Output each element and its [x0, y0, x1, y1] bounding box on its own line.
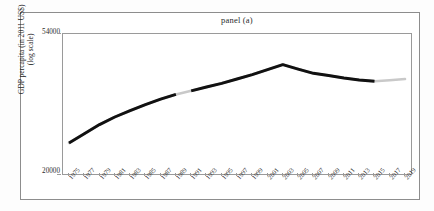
plot-area — [63, 34, 411, 174]
x-axis-tick-labels: 1975197719791981198319851987198919911993… — [62, 176, 412, 210]
data-series-line — [63, 34, 411, 174]
y-axis-title-line1: GDP percapita (in 2011 US$) — [17, 5, 26, 95]
main-series-segment-1 — [69, 94, 176, 142]
ghost-series-line — [69, 65, 405, 143]
y-axis-title-line2: (log scale) — [26, 0, 35, 119]
figure-canvas: panel (a) GDP percapita (in 2011 US$) (l… — [0, 0, 434, 211]
y-axis-title: GDP percapita (in 2011 US$) (log scale) — [17, 0, 36, 119]
y-tick-mark-bottom — [57, 174, 61, 175]
panel-title: panel (a) — [62, 15, 412, 25]
y-tick-mark-top — [57, 33, 61, 34]
main-series-segment-2 — [191, 65, 374, 91]
plot-frame — [62, 33, 412, 175]
y-tick-label-top: 54000 — [42, 28, 60, 36]
